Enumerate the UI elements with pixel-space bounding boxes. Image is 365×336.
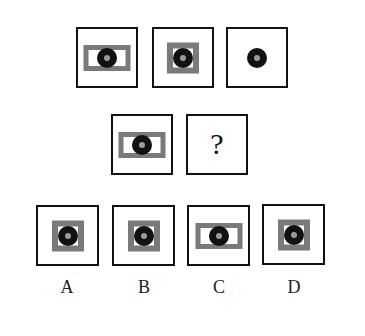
- circle-dot-icon: [284, 225, 304, 245]
- option-b-figure[interactable]: [112, 205, 175, 266]
- option-a-figure[interactable]: [36, 205, 99, 266]
- option-d-figure[interactable]: [262, 204, 325, 265]
- option-c-label: C: [199, 277, 239, 298]
- figure-unknown: ?: [186, 114, 248, 175]
- option-a-label: A: [47, 277, 87, 298]
- circle-dot-icon: [247, 48, 267, 68]
- circle-dot-icon: [209, 226, 229, 246]
- circle-dot-icon: [58, 226, 78, 246]
- figure-3: [226, 27, 288, 88]
- option-b-label: B: [124, 277, 164, 298]
- figure-2: [152, 27, 214, 88]
- option-c-figure[interactable]: [187, 205, 250, 266]
- circle-dot-icon: [97, 48, 117, 68]
- figure-4: [111, 114, 173, 175]
- circle-dot-icon: [132, 135, 152, 155]
- question-mark: ?: [188, 127, 246, 161]
- circle-dot-icon: [173, 48, 193, 68]
- option-d-label: D: [274, 277, 314, 298]
- circle-dot-icon: [134, 226, 154, 246]
- figure-1: [76, 27, 138, 88]
